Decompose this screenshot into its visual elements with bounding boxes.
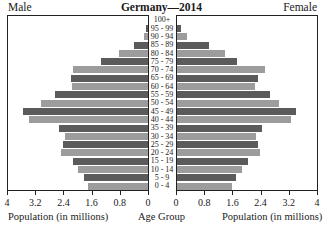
axis-tick (92, 190, 93, 195)
female-bar (177, 149, 260, 156)
axis-tick (35, 190, 36, 195)
axis-tick-label: 4 (302, 197, 323, 208)
male-bar (78, 166, 149, 173)
axis-tick (204, 190, 205, 195)
axis-tick (232, 190, 233, 195)
axis-tick-label: 1.6 (77, 197, 107, 208)
female-bar (177, 100, 279, 107)
axis-tick (176, 190, 177, 195)
female-bar (177, 66, 265, 73)
male-bar (41, 100, 148, 107)
female-x-axis (176, 190, 318, 191)
axis-tick (7, 190, 8, 195)
axis-tick-label: 1.6 (217, 197, 247, 208)
male-bar (134, 42, 148, 49)
female-bar (177, 75, 258, 82)
male-bar (88, 183, 148, 190)
female-bar (177, 42, 209, 49)
age-group-label: 35 - 39 (148, 124, 176, 132)
female-bar (177, 174, 236, 181)
axis-tick (120, 190, 121, 195)
male-bar (72, 83, 148, 90)
female-bar (177, 116, 291, 123)
age-group-label: 85 - 89 (148, 41, 176, 49)
axis-tick-label: 0.8 (189, 197, 219, 208)
male-bar (65, 133, 148, 140)
female-bar (177, 141, 258, 148)
male-bar (119, 50, 148, 57)
axis-tick-label: 3.2 (274, 197, 304, 208)
male-bar (101, 58, 148, 65)
male-bar (73, 158, 148, 165)
male-bar (84, 174, 148, 181)
axis-tick-label: 4 (0, 197, 22, 208)
female-bar (177, 125, 262, 132)
male-bar (63, 141, 148, 148)
female-bar (177, 91, 270, 98)
female-bar (177, 50, 225, 57)
male-bar (73, 66, 148, 73)
female-label: Female (283, 1, 317, 13)
age-group-label: 0 - 4 (148, 182, 176, 190)
male-bar (29, 116, 148, 123)
male-bar (59, 125, 148, 132)
female-bar (177, 133, 256, 140)
axis-tick-label: 2.4 (246, 197, 276, 208)
axis-tick-label: 0 (133, 197, 163, 208)
axis-tick (317, 190, 318, 195)
female-bar (177, 25, 181, 32)
axis-tick-label: 0 (161, 197, 191, 208)
female-bar (177, 33, 187, 40)
axis-tick-label: 2.4 (48, 197, 78, 208)
axis-tick-label: 0.8 (105, 197, 135, 208)
female-bar (177, 58, 237, 65)
female-bar (177, 158, 248, 165)
male-bar (61, 149, 148, 156)
female-x-axis-label: Population (in millions) (222, 211, 322, 222)
male-bar (71, 75, 148, 82)
axis-tick (63, 190, 64, 195)
axis-tick (148, 190, 149, 195)
female-bar (177, 83, 255, 90)
male-bar (55, 91, 148, 98)
age-group-label: Age Group (138, 211, 185, 222)
male-x-axis (7, 190, 149, 191)
female-bar (177, 183, 232, 190)
female-bar (177, 166, 242, 173)
axis-tick-label: 3.2 (20, 197, 50, 208)
male-bar (23, 108, 148, 115)
female-bar (177, 108, 296, 115)
axis-tick (261, 190, 262, 195)
axis-tick (289, 190, 290, 195)
chart-title: Germany—2014 (0, 1, 323, 13)
male-x-axis-label: Population (in millions) (8, 211, 108, 222)
